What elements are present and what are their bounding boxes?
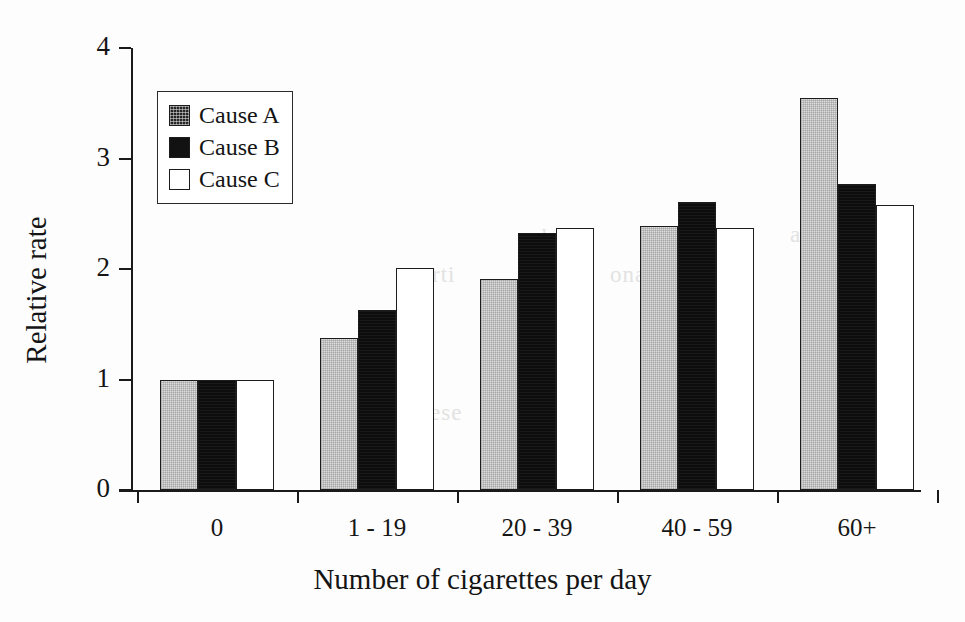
- legend-swatch-icon: [169, 137, 190, 158]
- y-axis-tick: 4: [119, 47, 131, 49]
- bar-cause-a-3: [640, 226, 678, 490]
- y-axis-tick-label: 2: [97, 253, 111, 281]
- x-axis-tick: [937, 490, 939, 503]
- bar-cause-b-3: [678, 202, 716, 490]
- y-axis-title-text: Relative rate: [14, 170, 58, 410]
- x-axis-category-label: 1 - 19: [348, 514, 406, 542]
- x-axis-tick: [137, 490, 139, 503]
- y-axis-tick-label: 4: [97, 32, 111, 60]
- bar-cause-c-1: [396, 268, 434, 490]
- x-axis-category-label: 40 - 59: [662, 514, 733, 542]
- y-axis-tick: 0: [119, 489, 131, 491]
- x-axis-line: [119, 490, 921, 492]
- x-axis-category-label: 0: [211, 514, 224, 542]
- x-axis-tick: [297, 490, 299, 503]
- x-axis-tick: [777, 490, 779, 503]
- legend-item-cause-c[interactable]: Cause C: [169, 163, 280, 195]
- legend-item-cause-a[interactable]: Cause A: [169, 99, 280, 131]
- x-axis-tick: [617, 490, 619, 503]
- y-axis-title: Relative rate: [14, 170, 58, 410]
- legend-item-cause-b[interactable]: Cause B: [169, 131, 280, 163]
- legend-item-label: Cause A: [199, 102, 280, 128]
- bar-cause-a-4: [800, 98, 838, 490]
- bar-cause-c-3: [716, 228, 754, 490]
- bar-cause-a-1: [320, 338, 358, 490]
- y-axis-tick: 3: [119, 158, 131, 160]
- bar-cause-b-1: [358, 310, 396, 490]
- bar-cause-b-0: [198, 380, 236, 491]
- x-axis-tick: [457, 490, 459, 503]
- legend-item-label: Cause B: [199, 134, 280, 160]
- legend-swatch-icon: [169, 105, 190, 126]
- bar-cause-a-0: [160, 380, 198, 491]
- x-axis-category-label: 20 - 39: [502, 514, 573, 542]
- bar-cause-b-4: [838, 184, 876, 490]
- bar-cause-c-4: [876, 205, 914, 490]
- y-axis-line: [131, 48, 133, 490]
- bar-chart-figure: cvb rti ona rd al cro dic ual ese ial Re…: [0, 0, 965, 622]
- legend-swatch-icon: [169, 169, 190, 190]
- y-axis-tick: 1: [119, 379, 131, 381]
- legend-item-label: Cause C: [199, 166, 280, 192]
- y-axis-tick-label: 3: [97, 143, 111, 171]
- bar-cause-b-2: [518, 233, 556, 490]
- x-axis-category-label: 60+: [837, 514, 876, 542]
- y-axis-tick: 2: [119, 268, 131, 270]
- y-axis-tick-label: 1: [97, 364, 111, 392]
- bar-cause-c-0: [236, 380, 274, 491]
- y-axis-tick-label: 0: [97, 474, 111, 502]
- legend: Cause ACause BCause C: [157, 91, 293, 204]
- bar-cause-a-2: [480, 279, 518, 490]
- bar-cause-c-2: [556, 228, 594, 490]
- x-axis-title: Number of cigarettes per day: [0, 562, 965, 596]
